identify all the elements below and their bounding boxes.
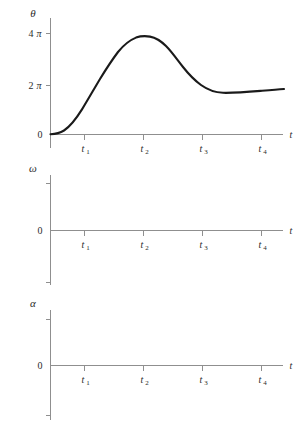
- omega-xtick-2-label: t: [141, 239, 144, 250]
- theta-xtick-1-sub: 1: [86, 148, 90, 156]
- theta-xtick-4-sub: 4: [263, 148, 267, 156]
- alpha-ytick-zero-label: 0: [38, 360, 43, 371]
- alpha-xtick-1-sub: 1: [86, 379, 90, 387]
- plot-canvas: θ t 4 π 2 π 0 t 1 t 2 t 3 t 4: [0, 0, 307, 437]
- alpha-xtick-2-sub: 2: [145, 379, 149, 387]
- omega-x-axis-label: t: [290, 225, 293, 236]
- theta-xtick-3-label: t: [200, 143, 203, 154]
- theta-ytick-2pi-label: 2: [29, 80, 34, 91]
- alpha-x-axis-label: t: [290, 360, 293, 371]
- alpha-plot: α t 0 t 1 t 2 t 3 t 4: [30, 297, 293, 420]
- theta-y-axis-label: θ: [30, 7, 36, 19]
- theta-ytick-4pi-pi: π: [36, 28, 42, 39]
- alpha-y-axis-label: α: [30, 297, 36, 309]
- omega-xtick-4-sub: 4: [263, 244, 267, 252]
- omega-xtick-3-label: t: [200, 239, 203, 250]
- alpha-xtick-1-label: t: [82, 374, 85, 385]
- omega-ytick-zero-label: 0: [38, 225, 43, 236]
- theta-x-axis-label: t: [290, 129, 293, 140]
- theta-ytick-4pi-label: 4: [29, 28, 34, 39]
- alpha-xtick-2-label: t: [141, 374, 144, 385]
- figure-container: θ t 4 π 2 π 0 t 1 t 2 t 3 t 4: [0, 0, 307, 437]
- alpha-xtick-3-sub: 3: [204, 379, 208, 387]
- omega-y-axis-label: ω: [29, 162, 37, 174]
- theta-xtick-4-label: t: [259, 143, 262, 154]
- theta-ytick-2pi-pi: π: [36, 80, 42, 91]
- theta-plot: θ t 4 π 2 π 0 t 1 t 2 t 3 t 4: [29, 7, 293, 156]
- theta-xtick-3-sub: 3: [204, 148, 208, 156]
- theta-ytick-zero-label: 0: [38, 129, 43, 140]
- alpha-xtick-3-label: t: [200, 374, 203, 385]
- alpha-xtick-4-label: t: [259, 374, 262, 385]
- theta-xtick-1-label: t: [82, 143, 85, 154]
- omega-xtick-3-sub: 3: [204, 244, 208, 252]
- omega-xtick-1-sub: 1: [86, 244, 90, 252]
- theta-xtick-2-sub: 2: [145, 148, 149, 156]
- omega-plot: ω t 0 t 1 t 2 t 3 t 4: [29, 162, 293, 285]
- theta-xtick-2-label: t: [141, 143, 144, 154]
- omega-xtick-4-label: t: [259, 239, 262, 250]
- omega-xtick-1-label: t: [82, 239, 85, 250]
- alpha-xtick-4-sub: 4: [263, 379, 267, 387]
- theta-curve: [51, 36, 285, 134]
- omega-xtick-2-sub: 2: [145, 244, 149, 252]
